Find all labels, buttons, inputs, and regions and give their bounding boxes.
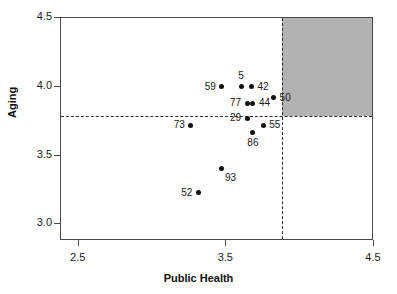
data-point — [245, 101, 250, 106]
data-point — [271, 95, 276, 100]
data-point — [219, 166, 224, 171]
data-point-label: 52 — [181, 188, 192, 198]
data-point — [250, 130, 255, 135]
x-axis-tick — [78, 240, 79, 246]
data-point-label: 73 — [174, 120, 185, 130]
data-point — [239, 84, 244, 89]
y-axis-tick-label: 4.5 — [20, 11, 52, 22]
data-point — [261, 123, 266, 128]
data-point-label: 59 — [205, 82, 216, 92]
y-axis-tick-label: 4.0 — [20, 80, 52, 91]
vertical-reference-line — [282, 18, 283, 239]
data-point — [245, 116, 250, 121]
data-point-label: 42 — [257, 82, 268, 92]
data-point-label: 77 — [230, 98, 241, 108]
data-point-label: 5 — [238, 71, 244, 81]
data-point-label: 93 — [225, 173, 236, 183]
x-axis-tick — [373, 240, 374, 246]
data-point — [188, 123, 193, 128]
data-point-label: 44 — [259, 98, 270, 108]
x-axis-tick-label: 4.5 — [365, 252, 380, 263]
scatter-chart: Aging 3.03.54.04.5 595427744502986557393… — [0, 0, 397, 294]
y-axis-title: Aging — [6, 87, 18, 118]
plot-area: 59542774450298655739352 — [60, 17, 373, 240]
data-point — [250, 101, 255, 106]
data-point — [219, 84, 224, 89]
x-axis-tick-label: 2.5 — [70, 252, 85, 263]
data-point-label: 29 — [230, 113, 241, 123]
data-point — [249, 84, 254, 89]
y-axis-tick-label: 3.5 — [20, 149, 52, 160]
horizontal-reference-line — [61, 116, 372, 117]
data-point-label: 55 — [269, 120, 280, 130]
x-axis-tick-label: 3.5 — [218, 252, 233, 263]
x-axis-tick — [225, 240, 226, 246]
data-point — [196, 190, 201, 195]
x-axis-title: Public Health — [0, 272, 397, 284]
data-point-label: 50 — [280, 93, 291, 103]
y-axis-tick-label: 3.0 — [20, 217, 52, 228]
data-point-label: 86 — [247, 138, 258, 148]
highlighted-quadrant-region — [282, 18, 373, 116]
x-axis: 2.53.54.5 — [60, 240, 373, 264]
